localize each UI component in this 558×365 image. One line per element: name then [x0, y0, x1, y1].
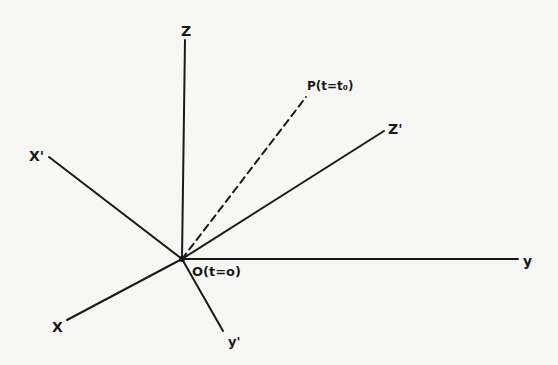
vector-p-dashed	[182, 97, 306, 259]
origin-point	[179, 256, 185, 262]
label-y-prime: y'	[228, 334, 240, 349]
diagram-canvas: Z Z' X' y X y' P(t=t₀) O(t=o)	[0, 0, 558, 365]
label-z: Z	[181, 23, 191, 39]
label-point-p: P(t=t₀)	[307, 79, 354, 93]
label-z-prime: Z'	[388, 121, 402, 137]
label-origin: O(t=o)	[192, 264, 241, 279]
coordinate-diagram: Z Z' X' y X y' P(t=t₀) O(t=o)	[0, 0, 558, 365]
label-x: X	[52, 319, 63, 335]
axis-x-prime	[49, 157, 182, 259]
label-y: y	[523, 253, 532, 269]
label-x-prime: X'	[29, 148, 44, 164]
axis-z-prime	[182, 131, 384, 259]
axis-z	[182, 40, 185, 259]
axis-x	[67, 259, 182, 320]
